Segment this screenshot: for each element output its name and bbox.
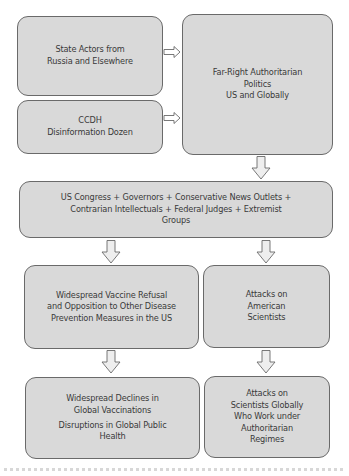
node-text: State Actors from	[55, 44, 124, 56]
node-text: Authoritarian	[241, 423, 293, 435]
node-attacks-american: Attacks on American Scientists	[203, 265, 330, 348]
node-text: Prevention Measures in the US	[51, 313, 172, 325]
node-text: Health	[100, 431, 126, 443]
arrow-right-icon	[163, 112, 181, 124]
node-text: American	[248, 301, 286, 313]
node-text: Disinformation Dozen	[47, 127, 133, 139]
node-text: Russia and Elsewhere	[47, 56, 133, 68]
node-text: Far-Right Authoritarian	[213, 67, 302, 79]
node-text: Contrarian Intellectuals + Federal Judge…	[70, 204, 281, 216]
arrow-down-icon	[256, 350, 276, 374]
node-text: Regimes	[250, 434, 284, 446]
node-text: Scientists Globally	[231, 400, 303, 412]
node-text: Attacks on	[246, 388, 288, 400]
node-text: CCDH	[78, 115, 101, 127]
node-text: Scientists	[248, 312, 286, 324]
node-text: US and Globally	[226, 90, 289, 102]
arrow-down-icon	[101, 240, 121, 264]
node-text: Disruptions in Global Public	[59, 420, 167, 432]
node-text: Widespread Declines in	[66, 393, 159, 405]
node-text: Global Vaccinations	[74, 405, 151, 417]
arrow-down-icon	[251, 156, 271, 180]
node-us-actors: US Congress + Governors + Conservative N…	[19, 181, 333, 238]
node-text: Groups	[162, 215, 190, 227]
node-far-right: Far-Right Authoritarian Politics US and …	[182, 14, 333, 155]
node-text: Widespread Vaccine Refusal	[56, 290, 167, 302]
node-text: Politics	[244, 79, 271, 91]
node-text: US Congress + Governors + Conservative N…	[61, 192, 291, 204]
node-text: Who Work under	[234, 411, 300, 423]
node-text: and Opposition to Other Disease	[47, 301, 176, 313]
arrow-down-icon	[101, 350, 121, 374]
node-ccdh: CCDH Disinformation Dozen	[17, 100, 163, 154]
node-global-declines: Widespread Declines in Global Vaccinatio…	[25, 377, 200, 459]
node-state-actors: State Actors from Russia and Elsewhere	[17, 16, 163, 96]
arrow-right-icon	[163, 46, 181, 58]
node-vaccine-refusal: Widespread Vaccine Refusal and Oppositio…	[24, 265, 199, 349]
node-attacks-global: Attacks on Scientists Globally Who Work …	[204, 376, 330, 458]
arrow-down-icon	[256, 240, 276, 264]
node-text: Attacks on	[246, 289, 288, 301]
cropped-caption	[4, 468, 345, 471]
